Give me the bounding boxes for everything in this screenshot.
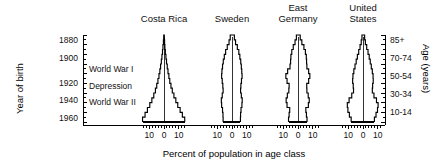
- panel-title-line: Sweden: [197, 14, 267, 25]
- panel-title-east-germany: EastGermany: [263, 3, 333, 25]
- x-tick-label: 10: [237, 131, 257, 141]
- panel-title-line: Germany: [263, 14, 333, 25]
- panel-title-line: States: [328, 14, 398, 25]
- year-tick-1900: 1900: [44, 54, 78, 64]
- x-tick-label: 10: [368, 131, 388, 141]
- year-tick-1940: 1940: [44, 96, 78, 106]
- panel-title-united-states: UnitedStates: [328, 3, 398, 25]
- year-tick-1880: 1880: [44, 36, 78, 46]
- x-tick-label: 10: [303, 131, 323, 141]
- year-tick-1960: 1960: [44, 114, 78, 124]
- pyramids-layer: [143, 35, 381, 129]
- annotation-world-war-i: World War I: [89, 65, 133, 75]
- age-tick-10-14: 10-14: [390, 108, 426, 118]
- population-pyramid-figure: Costa Rica Sweden EastGermany UnitedStat…: [0, 0, 441, 166]
- x-tick-label: 10: [169, 131, 189, 141]
- year-tick-1920: 1920: [44, 79, 78, 89]
- panel-title-line: Costa Rica: [129, 14, 199, 25]
- annotation-world-war-ii: World War II: [89, 98, 136, 108]
- left-axis-title: Year of birth: [14, 63, 25, 114]
- right-axis-title: Age (years): [421, 44, 432, 93]
- annotation-depression: Depression: [89, 82, 132, 92]
- figure-caption: Percent of population in age class: [83, 148, 385, 159]
- panel-title-costa-rica: Costa Rica: [129, 14, 199, 25]
- axes-layer: [83, 35, 385, 125]
- panel-title-sweden: Sweden: [197, 14, 267, 25]
